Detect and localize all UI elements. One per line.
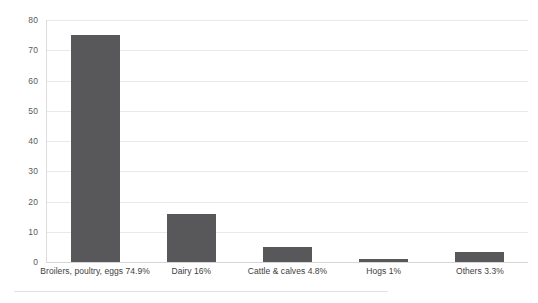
bar[interactable] [71, 35, 120, 262]
category-label: Dairy 16% [171, 266, 211, 276]
bars-layer [47, 20, 528, 262]
category-label: Cattle & calves 4.8% [248, 266, 327, 276]
bar-chart: 80706050403020100 Broilers, poultry, egg… [0, 0, 538, 303]
y-tick-label: 50 [28, 106, 38, 116]
gridline-0 [47, 262, 528, 263]
x-axis-category-labels: Broilers, poultry, eggs 74.9%Dairy 16%Ca… [47, 266, 528, 282]
bar[interactable] [167, 214, 216, 262]
category-label: Hogs 1% [366, 266, 401, 276]
category-label: Others 3.3% [456, 266, 504, 276]
bar[interactable] [263, 247, 312, 262]
y-tick-label: 30 [28, 166, 38, 176]
y-tick-label: 80 [28, 15, 38, 25]
bar[interactable] [359, 259, 408, 262]
y-tick-label: 70 [28, 45, 38, 55]
y-tick-label: 20 [28, 197, 38, 207]
category-label: Broilers, poultry, eggs 74.9% [40, 266, 149, 276]
y-axis: 80706050403020100 [0, 0, 47, 303]
y-tick-label: 60 [28, 76, 38, 86]
footer-divider [14, 291, 388, 292]
y-tick-label: 40 [28, 136, 38, 146]
y-tick-label: 10 [28, 227, 38, 237]
bar[interactable] [455, 252, 504, 262]
y-tick-label: 0 [33, 257, 38, 267]
